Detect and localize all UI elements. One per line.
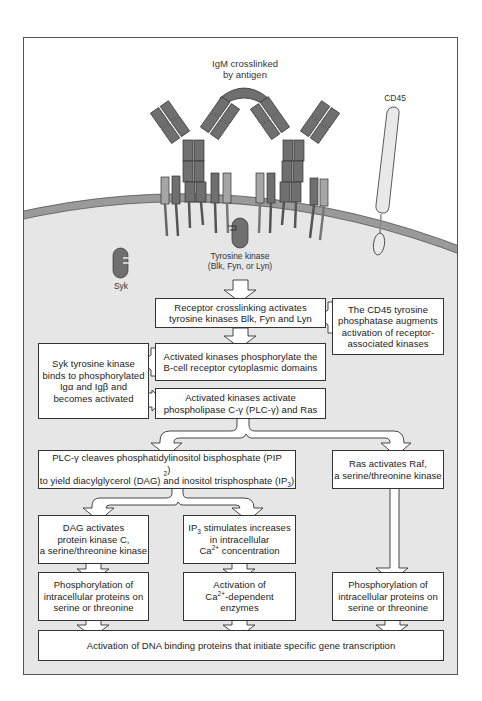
text-fragment: ) (291, 475, 294, 486)
text-line: enzymes (205, 602, 273, 614)
text-line: serine or threonine (44, 602, 143, 614)
text-line: intracellular proteins on (44, 591, 143, 603)
text-line: protein kinase C, (40, 534, 147, 546)
tyrosine-kinase-label-line2: (Blk, Fyn, or Lyn) (208, 261, 272, 271)
box-dna-binding: Activation of DNA binding proteins that … (38, 630, 444, 661)
box-phosphorylation-left: Phosphorylation ofintracellular proteins… (38, 572, 149, 621)
box-receptor-crosslinking: Receptor crosslinking activatestyrosine … (155, 298, 326, 328)
text-line: Activation of (205, 579, 273, 591)
bcr-signaling-diagram: IgM crosslinked by antigen CD45 Tyrosine… (0, 0, 482, 701)
text-line: Activation of DNA binding proteins that … (87, 640, 396, 652)
box-cd45-phosphatase: The CD45 tyrosinephosphatase augmentsact… (332, 298, 444, 355)
text-line: DAG activates (40, 522, 147, 534)
text-line: Activated kinases activate (164, 392, 318, 404)
text-line: tyrosine kinases Blk, Fyn and Lyn (169, 313, 312, 325)
text-fragment: PLC-γ cleaves phosphatidylinositol bisph… (40, 452, 294, 464)
box-ras-raf: Ras activates Raf,a serine/threonine kin… (332, 450, 444, 489)
box-plc-cleaves: PLC-γ cleaves phosphatidylinositol bisph… (38, 450, 296, 489)
box-calcium-enzymes: Activation of Ca2+-dependent enzymes (183, 572, 296, 621)
text-line: intracellular proteins on (338, 591, 437, 603)
text-line: phospholipase C-γ (PLC-γ) and Ras (164, 404, 318, 416)
text-line: Igα and Igβ and (42, 381, 144, 393)
syk-label: Syk (108, 281, 134, 292)
tyrosine-kinase-label: Tyrosine kinase (Blk, Fyn, or Lyn) (195, 251, 285, 271)
text-line: B-cell receptor cytoplasmic domains (164, 362, 318, 374)
syk-shape (113, 248, 129, 278)
text-fragment: stimulates increases (201, 522, 291, 533)
igm-label: IgM crosslinked by antigen (195, 58, 295, 80)
text-fragment: Ca (199, 545, 211, 556)
text-line: Phosphorylation of (44, 579, 143, 591)
text-line: Ca2+-dependent (205, 591, 273, 603)
text-line: a serine/threonine kinase (40, 545, 147, 557)
text-line: Ca2+ concentration (188, 545, 291, 557)
text-line: Ras activates Raf, (334, 458, 441, 470)
text-line: Activated kinases phosphorylate the (164, 351, 318, 363)
box-ip3-calcium: IP3 stimulates increases in intracellula… (183, 515, 296, 564)
text-line: binds to phosphorylated (42, 370, 144, 382)
text-line: PLC-γ cleaves phosphatidylinositol bisph… (40, 452, 294, 475)
text-line: activation of receptor- (338, 327, 438, 339)
text-line: serine or threonine (338, 602, 437, 614)
text-fragment: IP (188, 522, 197, 533)
tyrosine-kinase-label-line1: Tyrosine kinase (210, 251, 269, 261)
box-dag-pkc: DAG activatesprotein kinase C,a serine/t… (38, 515, 149, 564)
text-line: Phosphorylation of (338, 579, 437, 591)
text-fragment: Ca (205, 591, 217, 602)
text-line: becomes activated (42, 393, 144, 405)
text-fragment: concentration (219, 545, 279, 556)
text-line: The CD45 tyrosine (338, 304, 438, 316)
text-line: associated kinases (338, 338, 438, 350)
igm-label-line1: IgM crosslinked (212, 58, 278, 69)
text-fragment: -dependent (225, 591, 274, 602)
cd45-label: CD45 (375, 93, 415, 104)
box-syk-binds: Syk tyrosine kinasebinds to phosphorylat… (38, 343, 149, 419)
box-phosphorylation-right: Phosphorylation ofintracellular proteins… (332, 572, 444, 621)
box-activate-plc-ras: Activated kinases activatephospholipase … (155, 388, 326, 419)
box-phosphorylate-domains: Activated kinases phosphorylate theB-cel… (155, 343, 326, 381)
igm-label-line2: by antigen (223, 69, 267, 80)
text-line: a serine/threonine kinase (334, 470, 441, 482)
text-line: phosphatase augments (338, 315, 438, 327)
text-line: in intracellular (188, 534, 291, 546)
text-line: to yield diacylglycerol (DAG) and inosit… (40, 475, 294, 487)
text-fragment: ) (167, 464, 170, 475)
text-fragment: to yield diacylglycerol (DAG) and inosit… (40, 475, 287, 486)
text-line: IP3 stimulates increases (188, 522, 291, 534)
text-line: Receptor crosslinking activates (169, 302, 312, 314)
superscript: 2+ (218, 590, 226, 597)
text-line: Syk tyrosine kinase (42, 358, 144, 370)
